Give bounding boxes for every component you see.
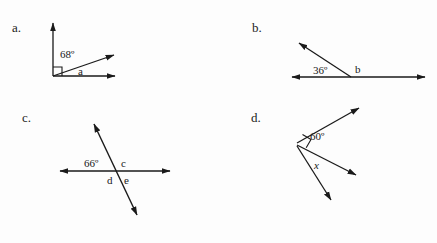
part-label-d: d.: [251, 111, 261, 124]
figure-c: [60, 124, 170, 215]
figure-d-upper-ray: [297, 108, 359, 143]
part-label-c: c.: [22, 111, 31, 124]
figure-c-diagonal-line: [94, 124, 137, 215]
worksheet-page: a. b. c. d. 68º a 36º b 66º c d e 60º x: [0, 0, 437, 243]
figure-a-unknown-label: a: [78, 66, 83, 77]
figure-c-unknown-label-d: d: [107, 175, 113, 186]
figure-c-unknown-label-c: c: [121, 158, 126, 169]
part-label-a: a.: [12, 21, 21, 34]
figure-b-angle-label: 36º: [313, 65, 327, 76]
figure-c-unknown-label-e: e: [124, 175, 129, 186]
figure-d: [297, 108, 359, 200]
part-label-b: b.: [252, 21, 262, 34]
figure-b-unknown-label: b: [355, 64, 361, 75]
geometry-figures: [0, 0, 437, 243]
figure-d-unknown-label: x: [314, 160, 319, 171]
figure-c-angle-label: 66º: [84, 158, 98, 169]
figure-a-angle-label: 68º: [60, 49, 74, 60]
figure-d-angle-label: 60º: [310, 131, 324, 142]
